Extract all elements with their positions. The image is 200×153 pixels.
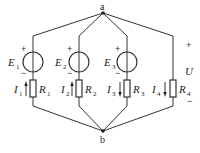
branch-4: R 4 I 4 [151, 80, 191, 98]
branch-3: + − E 3 R 3 I 3 [103, 44, 145, 98]
arrow-up-icon [24, 81, 27, 96]
arrow-up-icon [70, 81, 73, 96]
resistor-label: R [132, 83, 140, 95]
branch-1: + − E 1 R 1 I 1 [7, 44, 51, 98]
source-label: E [103, 56, 111, 68]
source-minus: − [115, 68, 120, 78]
source-sub: 3 [112, 63, 116, 71]
current-sub: 4 [157, 90, 161, 98]
voltage-plus: + [186, 40, 191, 50]
source-plus: + [67, 44, 72, 54]
resistor-icon [76, 80, 82, 97]
branch-wires [33, 72, 127, 80]
voltage-label: U [185, 65, 194, 77]
source-sub: 1 [16, 63, 20, 71]
current-sub: 2 [66, 90, 70, 98]
top-wires [33, 13, 173, 80]
source-plus: + [115, 44, 120, 54]
resistor-label: R [38, 83, 46, 95]
resistor-icon [30, 80, 36, 97]
current-sub: 1 [19, 90, 23, 98]
node-a-label: a [100, 1, 105, 12]
resistor-sub: 3 [141, 90, 145, 98]
node-b-label: b [100, 134, 105, 145]
node-b-dot [101, 129, 105, 133]
arrow-down-icon [163, 82, 166, 97]
voltage-minus: − [187, 96, 192, 106]
source-label: E [54, 56, 62, 68]
source-minus: − [67, 68, 72, 78]
source-sub: 2 [63, 63, 67, 71]
resistor-sub: 2 [93, 90, 97, 98]
resistor-sub: 1 [47, 90, 51, 98]
source-plus: + [21, 44, 26, 54]
circuit-diagram: a b + − E 1 R 1 I 1 + − E 2 R 2 I 2 [0, 0, 200, 153]
voltage-annotation: + U − [185, 40, 194, 106]
current-sub: 3 [112, 90, 116, 98]
resistor-label: R [178, 83, 186, 95]
resistor-icon [170, 80, 176, 97]
branch-2: + − E 2 R 2 I 2 [54, 44, 97, 98]
resistor-icon [124, 80, 130, 97]
source-minus: − [21, 68, 26, 78]
source-label: E [7, 56, 15, 68]
resistor-label: R [84, 83, 92, 95]
bottom-wires [33, 97, 173, 131]
arrow-down-icon [118, 82, 121, 97]
